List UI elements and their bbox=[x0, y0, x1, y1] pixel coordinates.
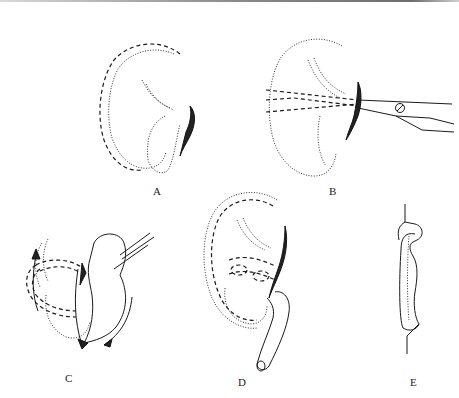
panel-c: C bbox=[20, 225, 160, 385]
rotation-arrow-right bbox=[104, 297, 132, 345]
ear-drawing-c bbox=[20, 225, 160, 385]
panel-label-e: E bbox=[410, 376, 417, 388]
panel-label-d: D bbox=[238, 376, 246, 388]
ear-drawing-a bbox=[90, 20, 210, 200]
panel-d: D bbox=[195, 170, 335, 390]
top-border-rule bbox=[0, 0, 459, 2]
panel-e: E bbox=[395, 200, 455, 390]
panel-label-a: A bbox=[153, 185, 161, 197]
panel-label-c: C bbox=[65, 372, 72, 384]
panel-a: A bbox=[90, 20, 210, 200]
profile-drawing-e bbox=[395, 200, 455, 390]
ear-drawing-d bbox=[195, 170, 335, 390]
